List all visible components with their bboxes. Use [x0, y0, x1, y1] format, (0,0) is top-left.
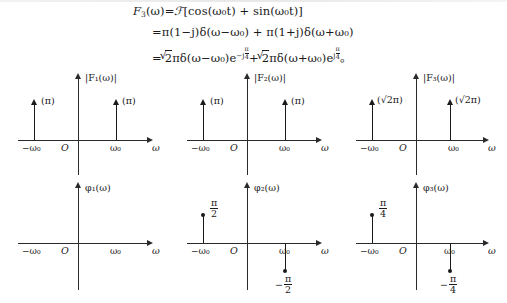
x-axis: [356, 140, 484, 141]
equation-term2-rest: πδ(ω+ω₀)e: [269, 51, 333, 65]
y-axis-arrow-icon: [244, 182, 250, 188]
x-axis: [356, 243, 484, 244]
x-axis-label: ω: [488, 245, 496, 256]
impulse-arrow-positive-icon: [447, 99, 453, 105]
origin-label: O: [230, 245, 238, 256]
impulse-stem-negative: [372, 105, 373, 140]
plot-magnitude-F2: |F₂(ω)| ω O −ω₀ ω₀ (π) (π): [169, 68, 338, 185]
equation-equals-1: =: [165, 4, 175, 18]
equation-terminator: 。: [340, 51, 351, 65]
phase-fraction-numerator: π: [284, 274, 292, 284]
x-axis-label: ω: [488, 142, 496, 153]
sqrt-radical-icon-2: 2: [259, 50, 269, 65]
x-axis-label: ω: [152, 142, 160, 153]
plot-phase-phi2: φ₂(ω) ω O −ω₀ ω₀ π 2 − π 2: [169, 185, 338, 302]
phase-label-positive: − π 4: [440, 274, 457, 296]
phase-label-positive-sign: −: [440, 279, 448, 290]
y-axis: [78, 187, 79, 290]
phase-fraction-positive: π 4: [449, 274, 457, 296]
phase-fraction-positive: π 2: [284, 274, 292, 296]
x-tick-positive-label: ω₀: [110, 143, 121, 153]
equation-line2-body: π(1−j)δ(ω−ω₀) + π(1+j)δ(ω+ω₀): [162, 25, 354, 39]
phase-fraction-negative: π 4: [379, 198, 387, 220]
x-axis: [18, 140, 148, 141]
y-axis: [247, 78, 248, 175]
x-tick-negative-label: −ω₀: [360, 143, 379, 153]
phase-fraction-denominator: 2: [210, 208, 218, 219]
x-tick-positive-label: ω₀: [448, 143, 459, 153]
phase-fraction-negative: π 2: [210, 198, 218, 220]
impulse-label-negative: (√2π): [377, 94, 403, 105]
y-axis-arrow-icon: [244, 73, 250, 79]
y-axis: [78, 78, 79, 175]
phase-stem-positive: [450, 243, 451, 271]
impulse-arrow-positive-icon: [282, 99, 288, 105]
impulse-stem-positive: [450, 105, 451, 140]
y-axis-label: |F₃(ω)|: [423, 72, 455, 83]
equation-term1-exp-sign: −j: [236, 52, 244, 60]
x-axis: [187, 140, 317, 141]
equation-block: F3(ω)=ℱ[cos(ω₀t) + sin(ω₀t)] =π(1−j)δ(ω−…: [0, 2, 507, 68]
y-axis: [247, 187, 248, 290]
x-axis: [187, 243, 317, 244]
equation-line1-body: [cos(ω₀t) + sin(ω₀t)]: [183, 4, 302, 18]
equation-lhs-symbol: F: [133, 4, 141, 18]
phase-point-negative: [370, 213, 374, 217]
equation-term1-coeff: 2: [165, 50, 172, 65]
x-tick-positive-label: ω₀: [279, 143, 290, 153]
x-tick-negative-label: −ω₀: [22, 143, 41, 153]
y-axis-arrow-icon: [413, 182, 419, 188]
impulse-arrow-negative-icon: [31, 99, 37, 105]
equation-line-1: F3(ω)=ℱ[cos(ω₀t) + sin(ω₀t)]: [133, 4, 303, 19]
plot-phase-phi3: φ₃(ω) ω O −ω₀ ω₀ π 4 − π 4: [338, 185, 507, 302]
y-axis-label: φ₂(ω): [254, 182, 280, 193]
origin-label: O: [61, 245, 69, 256]
y-axis-label: |F₁(ω)|: [85, 72, 117, 83]
phase-fraction-numerator: π: [379, 198, 387, 208]
y-axis-label: φ₃(ω): [423, 182, 449, 193]
sqrt-radical-icon-1: 2: [162, 50, 172, 65]
phase-fraction-numerator: π: [210, 198, 218, 208]
phase-label-negative: π 4: [379, 198, 387, 220]
y-axis: [416, 187, 417, 290]
x-tick-negative-label: −ω₀: [22, 246, 41, 256]
x-tick-negative-label: −ω₀: [360, 246, 379, 256]
impulse-label-positive: (π): [122, 95, 136, 106]
plot-phase-phi1: φ₁(ω) ω O −ω₀ ω₀: [0, 185, 169, 302]
x-axis-label: ω: [321, 142, 329, 153]
plot-magnitude-F1: |F₁(ω)| ω O −ω₀ ω₀ (π) (π): [0, 68, 169, 185]
phase-stem-positive: [285, 243, 286, 271]
phase-fraction-denominator: 4: [449, 284, 457, 295]
impulse-stem-positive: [116, 105, 117, 140]
phase-stem-negative: [372, 215, 373, 243]
origin-label: O: [230, 142, 238, 153]
impulse-arrow-positive-icon: [113, 99, 119, 105]
equation-term2-coeff: 2: [262, 50, 269, 65]
x-axis-label: ω: [321, 245, 329, 256]
impulse-label-positive: (√2π): [455, 94, 481, 105]
impulse-label-positive: (π): [291, 95, 305, 106]
impulse-stem-negative: [34, 105, 35, 140]
plot-magnitude-F3: |F₃(ω)| ω O −ω₀ ω₀ (√2π) (√2π): [338, 68, 507, 185]
y-axis-label: φ₁(ω): [85, 182, 111, 193]
equation-lhs-arg: (ω): [146, 4, 165, 18]
y-axis-arrow-icon: [75, 182, 81, 188]
equation-term2-exponent: jπ4: [333, 46, 340, 61]
equation-line-3: =2πδ(ω−ω₀)e−jπ4+2πδ(ω+ω₀)ejπ4。: [152, 46, 351, 65]
x-tick-negative-label: −ω₀: [191, 143, 210, 153]
y-axis: [416, 78, 417, 175]
equation-equals-2: =: [152, 25, 162, 39]
phase-stem-negative: [203, 215, 204, 243]
x-tick-negative-label: −ω₀: [191, 246, 210, 256]
origin-label: O: [399, 245, 407, 256]
origin-label: O: [399, 142, 407, 153]
impulse-stem-negative: [203, 105, 204, 140]
x-axis: [18, 243, 148, 244]
equation-term1-exponent: −jπ4: [236, 46, 249, 61]
x-tick-positive-label: ω₀: [110, 246, 121, 256]
impulse-label-negative: (π): [41, 95, 55, 106]
impulse-stem-positive: [285, 105, 286, 140]
equation-line-2: =π(1−j)δ(ω−ω₀) + π(1+j)δ(ω+ω₀): [152, 25, 354, 39]
plot-grid: |F₁(ω)| ω O −ω₀ ω₀ (π) (π) |F₂(ω)| ω O −…: [0, 68, 507, 303]
impulse-label-negative: (π): [210, 95, 224, 106]
